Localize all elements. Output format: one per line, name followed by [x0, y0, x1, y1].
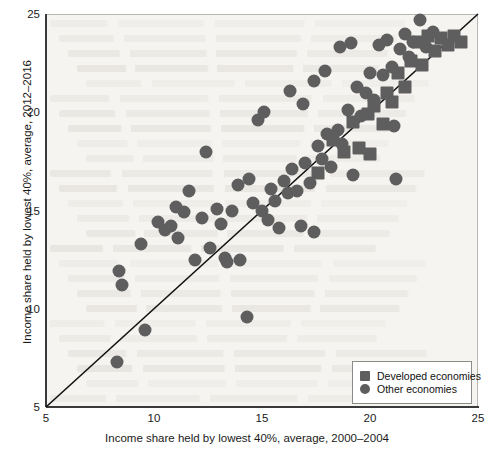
- data-point-circle: [312, 139, 325, 152]
- data-point-circle: [402, 51, 415, 64]
- data-point-circle: [199, 145, 212, 158]
- data-point-circle: [204, 241, 217, 254]
- legend-item-other-economies: Other economies: [360, 383, 463, 395]
- x-tick-label: 25: [472, 412, 485, 424]
- data-point-square: [398, 80, 411, 93]
- square-marker-icon: [360, 371, 370, 381]
- data-point-square: [385, 96, 398, 109]
- x-axis-line: [46, 406, 479, 408]
- data-point-circle: [333, 41, 346, 54]
- data-point-circle: [135, 237, 148, 250]
- legend-label-other-economies: Other economies: [377, 383, 457, 395]
- data-point-circle: [381, 33, 394, 46]
- data-point-circle: [214, 218, 227, 231]
- data-point-circle: [115, 279, 128, 292]
- data-point-square: [454, 35, 467, 48]
- data-point-circle: [318, 64, 331, 77]
- data-point-circle: [210, 202, 223, 215]
- data-point-circle: [420, 41, 433, 54]
- data-point-circle: [178, 206, 191, 219]
- data-point-circle: [189, 253, 202, 266]
- data-point-circle: [299, 157, 312, 170]
- data-point-square: [415, 59, 428, 72]
- data-point-circle: [385, 61, 398, 74]
- data-point-circle: [268, 194, 281, 207]
- data-point-circle: [139, 324, 152, 337]
- data-point-circle: [284, 84, 297, 97]
- data-point-circle: [325, 161, 338, 174]
- scatter-plot-figure: 510152025 510152025 Income share held by…: [0, 0, 494, 454]
- data-point-circle: [113, 265, 126, 278]
- data-point-circle: [111, 355, 124, 368]
- x-axis-title: Income share held by lowest 40%, average…: [0, 432, 494, 444]
- data-point-circle: [195, 212, 208, 225]
- data-point-circle: [426, 25, 439, 38]
- y-tick-label: 5: [34, 401, 40, 413]
- data-point-circle: [286, 163, 299, 176]
- x-tick-label: 20: [364, 412, 377, 424]
- y-axis-title: Income share held by lowest 40%, average…: [21, 0, 33, 412]
- data-point-circle: [342, 104, 355, 117]
- data-point-circle: [307, 226, 320, 239]
- data-point-circle: [307, 74, 320, 87]
- data-point-circle: [294, 220, 307, 233]
- data-point-circle: [221, 255, 234, 268]
- x-tick-label: 15: [256, 412, 269, 424]
- data-point-circle: [368, 94, 381, 107]
- data-point-circle: [335, 137, 348, 150]
- data-point-circle: [171, 232, 184, 245]
- data-point-circle: [297, 98, 310, 111]
- data-point-circle: [273, 222, 286, 235]
- x-tick-label: 5: [43, 412, 49, 424]
- data-point-circle: [234, 253, 247, 266]
- legend-item-developed-economies: Developed economies: [360, 370, 463, 382]
- data-point-circle: [243, 173, 256, 186]
- data-point-circle: [225, 204, 238, 217]
- data-point-circle: [240, 310, 253, 323]
- data-point-circle: [290, 184, 303, 197]
- y-axis-line: [45, 14, 47, 407]
- x-tick-label: 10: [148, 412, 161, 424]
- data-point-circle: [364, 66, 377, 79]
- legend-label-developed-economies: Developed economies: [377, 370, 481, 382]
- data-point-square: [364, 147, 377, 160]
- data-point-circle: [389, 173, 402, 186]
- data-point-circle: [182, 184, 195, 197]
- data-point-circle: [346, 169, 359, 182]
- chart-legend: Developed economies Other economies: [352, 361, 472, 404]
- data-point-circle: [413, 13, 426, 26]
- data-point-circle: [355, 110, 368, 123]
- data-point-circle: [387, 120, 400, 133]
- data-point-circle: [331, 123, 344, 136]
- circle-marker-icon: [360, 384, 370, 394]
- data-point-circle: [258, 106, 271, 119]
- data-point-circle: [407, 35, 420, 48]
- data-point-circle: [303, 176, 316, 189]
